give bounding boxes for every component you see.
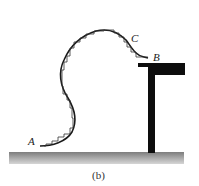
figure-caption: (b) [92, 170, 105, 181]
figure: A C B (b) [0, 0, 199, 186]
table-top [138, 63, 185, 75]
label-c: C [131, 33, 138, 44]
diagram-svg [0, 0, 199, 186]
table-post [148, 64, 155, 153]
ground [9, 152, 184, 164]
stair-steps [44, 30, 148, 146]
label-b: B [153, 52, 160, 63]
curve-path [40, 30, 148, 146]
label-a: A [28, 136, 35, 147]
